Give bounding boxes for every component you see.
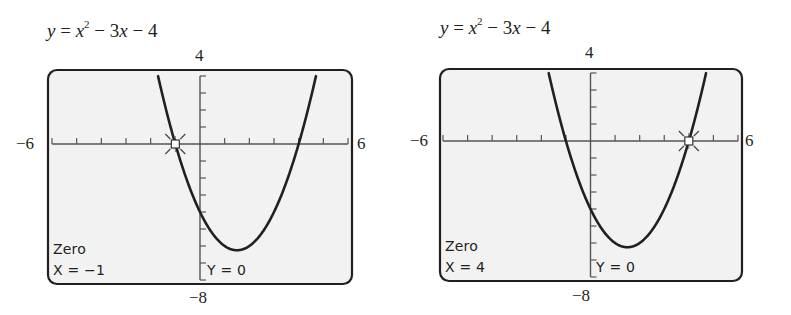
x-readout: X = 4: [445, 259, 485, 275]
graph-panel-right: y = x2 − 3x − 4 4 −8 −6 6 Zero X = 4 Y =…: [395, 0, 790, 315]
graph-panel-left: y = x2 − 3x − 4 4 −8 −6 6 Zero X = −1 Y …: [0, 0, 395, 315]
zero-cursor-marker: [679, 131, 699, 151]
zero-cursor-marker: [165, 134, 185, 154]
cursor-box: [171, 140, 179, 148]
zero-mode-label: Zero: [445, 238, 478, 254]
zero-mode-label: Zero: [53, 241, 86, 257]
y-readout: Y = 0: [207, 262, 246, 278]
x-readout: X = −1: [53, 262, 105, 278]
y-readout: Y = 0: [596, 259, 635, 275]
cursor-box: [685, 137, 693, 145]
